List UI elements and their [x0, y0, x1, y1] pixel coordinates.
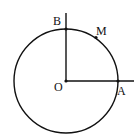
label-M: M: [96, 24, 107, 38]
geometry-diagram: B M O A: [0, 0, 140, 137]
label-B: B: [53, 14, 61, 28]
label-A: A: [117, 84, 126, 98]
point-A: [116, 79, 119, 82]
point-B: [64, 27, 67, 30]
label-O: O: [54, 80, 63, 94]
point-O: [64, 79, 67, 82]
